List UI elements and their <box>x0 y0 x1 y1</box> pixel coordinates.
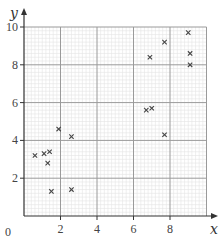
x-tick-label: 4 <box>94 222 100 236</box>
y-tick-label: 10 <box>6 20 18 34</box>
origin-label: 0 <box>5 225 11 239</box>
x-axis-arrow-icon <box>211 213 218 219</box>
scatter-chart: 2468246810 x y 0 <box>0 0 222 243</box>
x-tick-label: 8 <box>167 222 173 236</box>
x-tick-label: 2 <box>58 222 64 236</box>
y-tick-label: 4 <box>12 133 18 147</box>
y-axis-arrow-icon <box>21 8 27 15</box>
x-tick-label: 6 <box>131 222 137 236</box>
y-axis-label: y <box>9 5 19 21</box>
y-tick-label: 8 <box>12 58 18 72</box>
y-tick-label: 2 <box>12 171 18 185</box>
y-tick-label: 6 <box>12 96 18 110</box>
minor-grid <box>24 27 207 216</box>
x-axis-label: x <box>210 221 218 237</box>
